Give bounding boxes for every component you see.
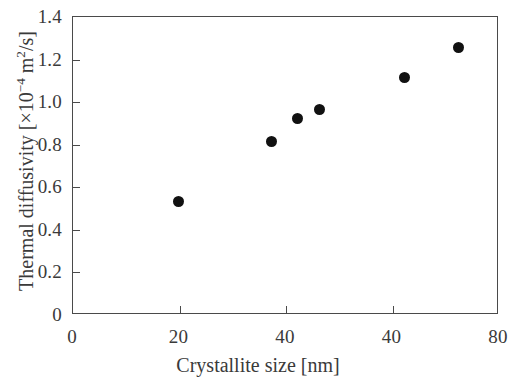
data-point (314, 104, 325, 115)
y-axis-title-exponent: −4 (13, 78, 28, 92)
x-axis-title: Crystallite size [nm] (0, 354, 516, 376)
y-axis-title: Thermal diffusivity [×10−4 m2/s] (15, 1, 37, 321)
y-axis-title-prefix: Thermal diffusivity [×10 (15, 92, 37, 291)
y-axis-title-tail: /s] (15, 31, 37, 51)
y-axis-tick (73, 145, 80, 146)
x-axis-tick-label: 0 (48, 327, 96, 346)
x-axis-tick-label: 20 (155, 327, 203, 346)
plot-area-frame (72, 16, 498, 314)
x-axis-tick (286, 306, 287, 313)
data-point (173, 196, 184, 207)
data-point (292, 113, 303, 124)
y-axis-tick (73, 187, 80, 188)
x-axis-tick (180, 306, 181, 313)
x-axis-tick-label: 40 (368, 327, 416, 346)
y-axis-tick (73, 60, 80, 61)
x-axis-tick (393, 306, 394, 313)
y-axis-tick (73, 230, 80, 231)
x-axis-tick-label: 40 (261, 327, 309, 346)
y-axis-title-exponent-2: 2 (13, 51, 28, 58)
y-axis-tick (73, 272, 80, 273)
y-axis-tick (73, 102, 80, 103)
y-axis-title-unit: m (15, 58, 37, 79)
data-point (453, 42, 464, 53)
scatter-chart-figure: 00.20.40.60.81.01.21.4 020404080 Crystal… (0, 0, 516, 389)
x-axis-tick-label: 80 (474, 327, 516, 346)
